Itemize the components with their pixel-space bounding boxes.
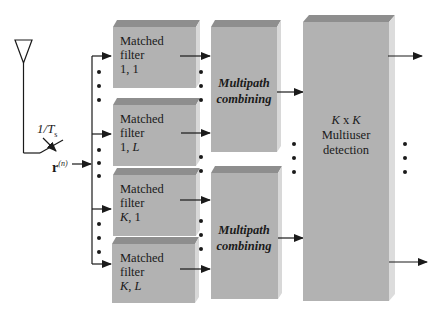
mf-index: K, 1 xyxy=(120,210,164,224)
mf-index: 1, 1 xyxy=(120,62,164,76)
ellipsis-dots-bus xyxy=(97,70,101,254)
mf-line1: Matched xyxy=(120,251,164,265)
mp-line2: combining xyxy=(204,91,284,107)
mf-line2: filter xyxy=(120,265,164,279)
mf-line1: Matched xyxy=(120,34,164,48)
sampling-sub: s xyxy=(54,130,57,139)
multiuser-detection-label: K x K Multiuser detection xyxy=(296,113,396,158)
input-signal-label: r(n) xyxy=(52,157,68,175)
multipath-label-1: Multipath combining xyxy=(204,75,284,107)
sampling-prefix: 1/ xyxy=(37,121,47,136)
multiuser-detection-box xyxy=(303,15,395,301)
mf-index: K, L xyxy=(120,279,164,293)
distribution-bus xyxy=(92,56,111,264)
mf-line1: Matched xyxy=(120,112,164,126)
mf-label-1-1: Matched filter 1, 1 xyxy=(120,34,164,76)
mud-line3: detection xyxy=(296,143,396,158)
mf-label-K-1: Matched filter K, 1 xyxy=(120,182,164,224)
mud-line2: Multiuser xyxy=(296,128,396,143)
mf-line2: filter xyxy=(120,48,164,62)
mf-index: 1, L xyxy=(120,140,164,154)
mp-line2: combining xyxy=(204,238,284,254)
sampling-rate-label: 1/Ts xyxy=(37,122,57,142)
mf-line2: filter xyxy=(120,196,164,210)
mf-line1: Matched xyxy=(120,182,164,196)
mp-line1: Multipath xyxy=(204,75,284,91)
mp-line1: Multipath xyxy=(204,222,284,238)
mf-label-K-L: Matched filter K, L xyxy=(120,251,164,293)
mud-dims: K x K xyxy=(296,113,396,128)
multipath-label-2: Multipath combining xyxy=(204,222,284,254)
ellipsis-dots-output xyxy=(403,142,407,174)
input-signal-sup: (n) xyxy=(58,159,67,168)
mf-label-1-L: Matched filter 1, L xyxy=(120,112,164,154)
mf-line2: filter xyxy=(120,126,164,140)
